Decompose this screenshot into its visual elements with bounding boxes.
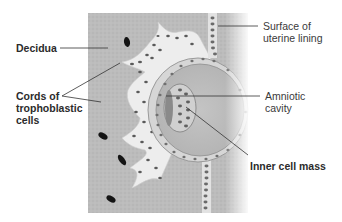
label-decidua: Decidua — [16, 42, 57, 54]
label-amniotic-cavity: Amniotic cavity — [265, 90, 305, 114]
amniotic-cavity — [165, 90, 173, 126]
label-inner-cell-mass: Inner cell mass — [250, 160, 326, 172]
uterine-lining-top — [208, 13, 217, 58]
uterine-lining-bottom — [202, 160, 211, 213]
label-surface-uterine-lining: Surface of uterine lining — [263, 20, 323, 44]
implantation-diagram: Decidua Cords of trophoblastic cells Sur… — [0, 0, 342, 222]
label-cords-trophoblastic: Cords of trophoblastic cells — [16, 90, 83, 126]
